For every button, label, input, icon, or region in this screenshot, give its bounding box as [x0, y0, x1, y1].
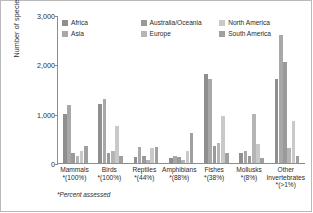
legend-label: South America	[228, 30, 271, 37]
x-axis-category-name: Amphibians	[162, 166, 196, 173]
legend-item[interactable]: Asia	[62, 30, 141, 37]
x-axis-category-name: Reptiles	[132, 166, 156, 173]
bar	[80, 151, 84, 163]
legend-swatch	[219, 20, 225, 26]
bar	[107, 153, 111, 163]
x-axis-labels: Mammals*(100%)Birds*(100%)Reptiles*(44%)…	[57, 166, 305, 189]
bar	[98, 104, 102, 163]
legend-swatch	[219, 31, 225, 37]
bar	[248, 156, 252, 163]
bar	[296, 156, 300, 163]
bar	[177, 157, 181, 163]
bar	[138, 147, 142, 163]
chart-container: Number of species threatened 01,0002,000…	[0, 0, 313, 213]
bar	[292, 121, 296, 163]
bar	[181, 160, 185, 163]
bar	[225, 153, 229, 163]
bar	[186, 151, 190, 163]
bar	[275, 79, 279, 163]
y-tick-label: 3,000	[37, 12, 55, 21]
bar	[103, 99, 107, 163]
legend-swatch	[62, 20, 68, 26]
legend-label: Europe	[150, 30, 171, 37]
legend-label: Africa	[71, 19, 88, 26]
x-axis-category-percent: *(>1%)	[267, 181, 305, 189]
x-axis-category-name: Fishes	[204, 166, 223, 173]
bar	[155, 147, 159, 163]
x-axis-category-percent: *(88%)	[162, 174, 197, 182]
y-tick-label: 2,000	[37, 61, 55, 70]
legend-item[interactable]: Africa	[62, 19, 141, 26]
bar	[63, 114, 67, 163]
bar	[239, 153, 243, 163]
legend-swatch	[141, 20, 147, 26]
x-axis-label: Fishes*(38%)	[197, 166, 232, 189]
legend-label: Australia/Oceania	[150, 19, 202, 26]
bar	[67, 105, 71, 163]
bar	[84, 146, 88, 163]
x-axis-label: Mammals*(100%)	[57, 166, 92, 189]
legend-swatch	[62, 31, 68, 37]
x-axis-label: Amphibians*(88%)	[162, 166, 197, 189]
bar	[111, 151, 115, 163]
y-axis-title: Number of species threatened	[12, 0, 21, 68]
legend-item[interactable]: North America	[219, 19, 298, 26]
x-axis-label: Birds*(100%)	[92, 166, 127, 189]
bar	[190, 133, 194, 163]
bar	[213, 146, 217, 163]
bar	[173, 156, 177, 163]
x-axis-label: Mollusks*(8%)	[232, 166, 267, 189]
x-axis-category-percent: *(44%)	[127, 174, 162, 182]
bar	[279, 35, 283, 163]
legend-label: North America	[228, 19, 270, 26]
bar	[115, 126, 119, 163]
legend-swatch	[141, 31, 147, 37]
x-axis-category-percent: *(100%)	[92, 174, 127, 182]
bar	[71, 153, 75, 163]
legend-label: Asia	[71, 30, 84, 37]
bar	[146, 160, 150, 163]
bar	[221, 116, 225, 163]
legend-item[interactable]: South America	[219, 30, 298, 37]
bar	[142, 156, 146, 163]
y-tick-label: 1,000	[37, 110, 55, 119]
legend-item[interactable]: Australia/Oceania	[141, 19, 220, 26]
bar	[169, 158, 173, 163]
x-axis-category-name: Other Invertebrates	[267, 166, 305, 181]
x-axis-category-percent: *(8%)	[232, 174, 267, 182]
x-axis-category-name: Birds	[102, 166, 117, 173]
bar	[204, 74, 208, 163]
x-axis-category-name: Mammals	[60, 166, 89, 173]
legend-item[interactable]: Europe	[141, 30, 220, 37]
chart-legend: AfricaAustralia/OceaniaNorth AmericaAsia…	[62, 19, 298, 41]
y-tick-mark	[55, 164, 58, 165]
bar	[208, 79, 212, 163]
bar	[76, 156, 80, 163]
bar	[217, 143, 221, 163]
x-axis-category-percent: *(100%)	[57, 174, 92, 182]
x-axis-category-name: Mollusks	[236, 166, 262, 173]
bar	[283, 62, 287, 163]
bar	[260, 158, 264, 163]
bar	[244, 151, 248, 163]
footnote: *Percent assessed	[57, 191, 110, 198]
bar	[256, 144, 260, 163]
bar	[134, 157, 138, 163]
bar	[150, 148, 154, 163]
x-axis-label: Reptiles*(44%)	[127, 166, 162, 189]
bar	[287, 148, 291, 163]
x-axis-label: Other Invertebrates*(>1%)	[267, 166, 305, 189]
bar	[252, 114, 256, 163]
bar	[119, 156, 123, 163]
x-axis-category-percent: *(38%)	[197, 174, 232, 182]
